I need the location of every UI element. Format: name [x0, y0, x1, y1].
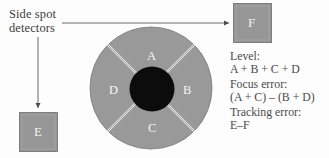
quadrant-label-c: C	[148, 121, 156, 136]
formula-focus-error-expression: (A + C) – (B + D)	[230, 91, 315, 103]
formula-tracking-error-expression: E–F	[230, 119, 250, 131]
quadrant-label-b: B	[183, 83, 191, 98]
formula-focus-error-label: Focus error:	[230, 78, 287, 90]
side-detector-e-letter: E	[34, 124, 42, 140]
formula-tracking-error-label: Tracking error:	[230, 106, 301, 118]
formula-level-expression: A + B + C + D	[230, 63, 300, 75]
side-spot-detectors-label: Side spot detectors	[9, 8, 56, 35]
quadrant-label-a: A	[147, 49, 156, 64]
figure-canvas: Side spot detectors F E A B C D Level: A…	[0, 0, 329, 158]
side-detector-f-letter: F	[248, 15, 255, 31]
detector-hub	[130, 67, 175, 112]
quadrant-label-d: D	[109, 83, 118, 98]
formula-level-label: Level:	[230, 50, 260, 62]
